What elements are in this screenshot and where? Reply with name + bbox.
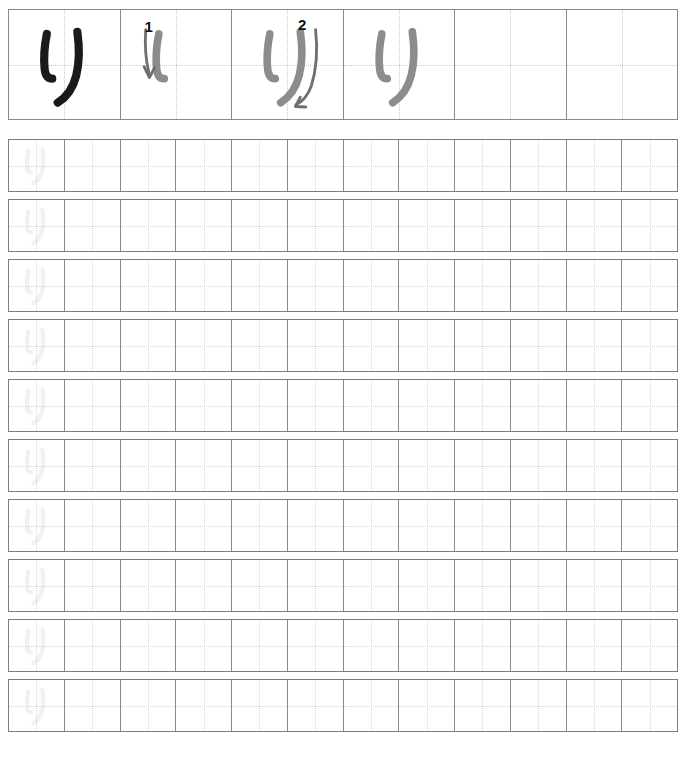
- practice-cell-blank[interactable]: [455, 260, 511, 311]
- practice-cell-blank[interactable]: [455, 140, 511, 191]
- practice-cell-blank[interactable]: [622, 500, 677, 551]
- practice-cell-blank[interactable]: [622, 200, 677, 251]
- practice-cell-blank[interactable]: [622, 440, 677, 491]
- practice-cell-blank[interactable]: [511, 500, 567, 551]
- practice-cell-blank[interactable]: [121, 500, 177, 551]
- practice-cell-trace[interactable]: [9, 620, 65, 671]
- practice-cell-blank[interactable]: [567, 680, 623, 731]
- practice-cell-blank[interactable]: [344, 320, 400, 371]
- practice-cell-blank[interactable]: [455, 200, 511, 251]
- practice-cell-blank[interactable]: [567, 140, 623, 191]
- practice-cell-blank[interactable]: [344, 440, 400, 491]
- practice-cell-blank[interactable]: [567, 440, 623, 491]
- practice-cell-blank[interactable]: [511, 140, 567, 191]
- practice-cell-trace[interactable]: [9, 260, 65, 311]
- practice-cell-blank[interactable]: [455, 380, 511, 431]
- practice-cell-blank[interactable]: [232, 620, 288, 671]
- practice-cell-blank[interactable]: [622, 560, 677, 611]
- practice-cell-blank[interactable]: [121, 140, 177, 191]
- practice-cell-blank[interactable]: [288, 560, 344, 611]
- practice-cell-blank[interactable]: [344, 140, 400, 191]
- practice-cell-blank[interactable]: [511, 620, 567, 671]
- practice-cell-blank[interactable]: [567, 320, 623, 371]
- practice-cell-blank[interactable]: [232, 260, 288, 311]
- practice-cell-blank[interactable]: [121, 380, 177, 431]
- practice-cell-blank[interactable]: [121, 260, 177, 311]
- practice-cell-trace[interactable]: [9, 560, 65, 611]
- practice-cell-blank[interactable]: [622, 140, 677, 191]
- practice-cell-blank[interactable]: [176, 200, 232, 251]
- practice-cell-blank[interactable]: [344, 200, 400, 251]
- practice-cell-blank[interactable]: [232, 200, 288, 251]
- practice-cell-blank[interactable]: [511, 680, 567, 731]
- practice-cell-blank[interactable]: [288, 260, 344, 311]
- practice-cell-blank[interactable]: [65, 440, 121, 491]
- practice-cell-trace[interactable]: [9, 140, 65, 191]
- practice-cell-trace[interactable]: [9, 680, 65, 731]
- practice-cell-blank[interactable]: [344, 380, 400, 431]
- practice-cell-blank[interactable]: [288, 140, 344, 191]
- practice-cell-blank[interactable]: [65, 620, 121, 671]
- practice-cell-blank[interactable]: [399, 320, 455, 371]
- practice-cell-trace[interactable]: [9, 440, 65, 491]
- practice-cell-blank[interactable]: [232, 560, 288, 611]
- practice-cell-blank[interactable]: [399, 680, 455, 731]
- practice-cell-blank[interactable]: [622, 260, 677, 311]
- practice-cell-blank[interactable]: [65, 380, 121, 431]
- practice-cell-blank[interactable]: [511, 200, 567, 251]
- practice-cell-blank[interactable]: [567, 260, 623, 311]
- practice-cell-blank[interactable]: [121, 440, 177, 491]
- practice-cell-blank[interactable]: [176, 140, 232, 191]
- practice-cell-blank[interactable]: [232, 500, 288, 551]
- practice-cell-blank[interactable]: [455, 440, 511, 491]
- practice-cell-blank[interactable]: [622, 680, 677, 731]
- practice-cell-trace[interactable]: [9, 380, 65, 431]
- practice-cell-blank[interactable]: [399, 140, 455, 191]
- practice-cell-blank[interactable]: [232, 380, 288, 431]
- practice-cell-blank[interactable]: [176, 560, 232, 611]
- practice-cell-blank[interactable]: [567, 560, 623, 611]
- practice-cell-blank[interactable]: [232, 680, 288, 731]
- practice-cell-blank[interactable]: [455, 620, 511, 671]
- practice-cell-blank[interactable]: [176, 680, 232, 731]
- practice-cell-blank[interactable]: [622, 320, 677, 371]
- practice-cell-blank[interactable]: [399, 260, 455, 311]
- practice-cell-blank[interactable]: [344, 260, 400, 311]
- practice-cell-blank[interactable]: [511, 260, 567, 311]
- practice-cell-blank[interactable]: [399, 380, 455, 431]
- practice-cell-blank[interactable]: [399, 500, 455, 551]
- practice-cell-blank[interactable]: [344, 680, 400, 731]
- practice-cell-blank[interactable]: [176, 260, 232, 311]
- practice-cell-blank[interactable]: [455, 500, 511, 551]
- practice-cell-blank[interactable]: [65, 260, 121, 311]
- practice-cell-blank[interactable]: [65, 500, 121, 551]
- practice-cell-blank[interactable]: [344, 620, 400, 671]
- practice-cell-blank[interactable]: [288, 680, 344, 731]
- practice-cell-blank[interactable]: [399, 440, 455, 491]
- practice-cell-blank[interactable]: [344, 560, 400, 611]
- practice-cell-blank[interactable]: [176, 500, 232, 551]
- practice-cell-blank[interactable]: [288, 620, 344, 671]
- practice-cell-trace[interactable]: [9, 200, 65, 251]
- practice-cell-blank[interactable]: [288, 500, 344, 551]
- practice-cell-blank[interactable]: [399, 560, 455, 611]
- practice-cell-blank[interactable]: [288, 440, 344, 491]
- practice-cell-blank[interactable]: [232, 440, 288, 491]
- practice-cell-blank[interactable]: [511, 320, 567, 371]
- practice-cell-blank[interactable]: [288, 200, 344, 251]
- practice-cell-blank[interactable]: [344, 500, 400, 551]
- practice-cell-blank[interactable]: [65, 560, 121, 611]
- practice-cell-blank[interactable]: [232, 140, 288, 191]
- practice-cell-blank[interactable]: [511, 380, 567, 431]
- practice-cell-blank[interactable]: [567, 620, 623, 671]
- practice-cell-blank[interactable]: [567, 380, 623, 431]
- practice-cell-blank[interactable]: [176, 380, 232, 431]
- practice-cell-blank[interactable]: [65, 680, 121, 731]
- practice-cell-blank[interactable]: [288, 320, 344, 371]
- practice-cell-blank[interactable]: [455, 320, 511, 371]
- practice-cell-blank[interactable]: [65, 140, 121, 191]
- practice-cell-trace[interactable]: [9, 320, 65, 371]
- practice-cell-blank[interactable]: [455, 680, 511, 731]
- practice-cell-blank[interactable]: [567, 200, 623, 251]
- practice-cell-blank[interactable]: [567, 500, 623, 551]
